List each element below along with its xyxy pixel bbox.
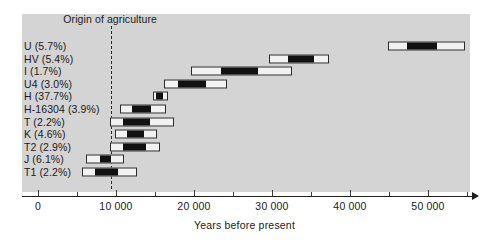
range-bar-core [123,118,150,125]
x-tick-minor-35000 [311,192,312,196]
x-axis-line [22,196,474,197]
x-tick-label-10000: 10 000 [99,200,132,212]
x-tick-0 [38,190,39,196]
x-tick-minor-45000 [389,192,390,196]
range-bar-core [127,131,144,138]
range-bar [269,54,329,63]
x-tick-minor-55000 [467,192,468,196]
x-tick-minor-5000 [77,192,78,196]
range-bar-core [123,143,146,150]
range-bar [191,67,292,76]
category-label: U4 (3.0%) [24,78,72,90]
origin-of-agriculture-line [111,26,112,189]
category-label: H (37.7%) [24,90,72,102]
range-bar [388,42,464,51]
range-bar [164,79,227,88]
range-bar-core [156,93,163,100]
range-bar [153,92,169,101]
category-label: H-16304 (3.9%) [24,103,100,115]
x-tick-label-20000: 20 000 [177,200,210,212]
category-label: K (4.6%) [24,128,66,140]
category-label: I (1.7%) [24,65,62,77]
x-tick-30000 [272,190,273,196]
origin-of-agriculture-label: Origin of agriculture [63,13,157,25]
range-bar [110,117,174,126]
x-tick-minor-25000 [233,192,234,196]
haplogroup-expansion-chart: Origin of agriculture U (5.7%)HV (5.4%)I… [0,0,489,247]
range-bar [110,142,160,151]
range-bar [86,155,124,164]
x-tick-label-40000: 40 000 [333,200,366,212]
x-tick-label-30000: 30 000 [255,200,288,212]
category-label: J (6.1%) [24,153,64,165]
x-axis-label: Years before present [0,219,489,231]
range-bar [115,130,156,139]
category-label: T1 (2.2%) [24,166,71,178]
x-tick-label-50000: 50 000 [411,200,444,212]
x-tick-10000 [116,190,117,196]
range-bar [120,105,166,114]
x-tick-50000 [428,190,429,196]
x-tick-minor-15000 [155,192,156,196]
category-label: HV (5.4%) [24,53,73,65]
category-label: T (2.2%) [24,116,65,128]
range-bar-core [288,55,315,62]
x-tick-40000 [350,190,351,196]
x-axis-arrow-icon [472,192,479,200]
range-bar [82,168,137,177]
range-bar-core [132,106,152,113]
range-bar-core [407,43,437,50]
x-tick-label-0: 0 [35,200,41,212]
range-bar-core [100,156,111,163]
range-bar-core [221,68,258,75]
x-tick-20000 [194,190,195,196]
category-label: T2 (2.9%) [24,141,71,153]
range-bar-core [95,169,118,176]
range-bar-core [178,80,206,87]
category-label: U (5.7%) [24,40,66,52]
